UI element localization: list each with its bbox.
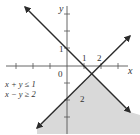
inequality-graph: y x 0 1 2 1 x + y ≤ 1 x − y ≥ 2 2	[0, 0, 140, 135]
x-tick-label-2: 2	[97, 53, 102, 63]
shaded-region	[37, 75, 140, 135]
x-tick-label-1: 1	[82, 53, 87, 63]
inequality-2-label: x − y ≥ 2	[4, 89, 36, 99]
y-axis-label: y	[58, 3, 64, 14]
y-tick-label-1: 1	[59, 44, 64, 54]
origin-label: 0	[58, 69, 63, 79]
inequality-1-label: x + y ≤ 1	[4, 79, 36, 89]
region-label: 2	[80, 94, 85, 104]
x-axis-label: x	[127, 65, 133, 76]
